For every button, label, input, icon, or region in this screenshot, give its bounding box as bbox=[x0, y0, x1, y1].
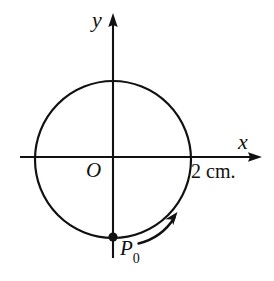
radius-annotation-label: 2 cm. bbox=[191, 161, 235, 181]
x-axis-arrowhead bbox=[248, 152, 262, 162]
point-p0-subscript: 0 bbox=[133, 251, 140, 266]
y-axis-label: y bbox=[92, 9, 102, 31]
point-p0-marker bbox=[108, 232, 117, 241]
x-axis-label: x bbox=[238, 131, 248, 153]
y-axis-arrowhead bbox=[108, 13, 117, 27]
origin-label: O bbox=[86, 160, 101, 181]
figure-canvas: y x O P0 2 cm. bbox=[0, 0, 274, 281]
point-p0-letter: P bbox=[120, 236, 133, 260]
point-p0-label: P0 bbox=[120, 238, 140, 263]
